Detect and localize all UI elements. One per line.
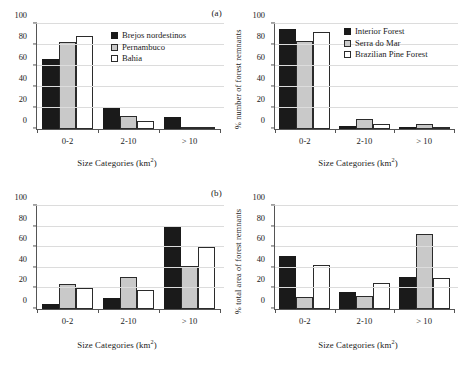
y-tick-mark xyxy=(33,43,37,44)
y-tick-mark xyxy=(271,204,275,205)
y-tick-label: 80 xyxy=(257,32,270,41)
x-tick-label: 0-2 xyxy=(299,136,310,146)
black-square-swatch xyxy=(344,28,351,35)
x-tick-mark xyxy=(335,309,336,313)
bar xyxy=(164,117,181,129)
bar-group xyxy=(98,206,159,309)
bar-group xyxy=(275,206,335,309)
legend-item-label: Serra do Mar xyxy=(355,38,400,50)
y-tick-label: 20 xyxy=(257,275,270,284)
y-tick-label: 40 xyxy=(257,74,270,83)
panel-label-b: (b) xyxy=(211,188,222,198)
legend-item: Brazilian Pine Forest xyxy=(344,49,428,61)
x-tick-mark xyxy=(454,309,455,313)
gridline xyxy=(37,65,224,66)
plot-wrapper: (a) 0204060801000-22-10> 10 Brejos norde… xyxy=(6,6,228,182)
bar xyxy=(416,124,433,129)
gridline xyxy=(275,86,458,87)
x-tick-label: 2-10 xyxy=(357,316,373,326)
y-tick-label: 40 xyxy=(257,254,270,263)
legend-item-label: Bahia xyxy=(122,53,142,65)
x-tick-label: 2-10 xyxy=(121,316,137,326)
bar xyxy=(198,247,215,309)
y-tick-label: 80 xyxy=(19,213,32,222)
gridline xyxy=(37,246,224,247)
x-tick-mark xyxy=(454,129,455,133)
x-tick-mark xyxy=(335,129,336,133)
legend-item: Bahia xyxy=(111,53,186,65)
y-tick-mark xyxy=(271,85,275,86)
y-tick-mark xyxy=(33,287,37,288)
y-tick-mark xyxy=(271,287,275,288)
black-square-swatch xyxy=(111,32,118,39)
legend-item-label: Interior Forest xyxy=(355,26,404,38)
y-tick-label: 0 xyxy=(261,296,270,305)
x-tick-label: > 10 xyxy=(416,136,432,146)
bar xyxy=(416,234,433,309)
bar-group xyxy=(275,24,335,129)
x-axis-title: Size Categories (km2) xyxy=(6,156,228,168)
bar xyxy=(399,127,416,129)
bar-group xyxy=(37,206,98,309)
legend-item: Interior Forest xyxy=(344,26,428,38)
y-tick-label: 40 xyxy=(19,254,32,263)
gridline xyxy=(37,23,224,24)
bar-group xyxy=(394,206,454,309)
y-tick-label: 0 xyxy=(261,116,270,125)
y-axis-title: % number of forest remnants xyxy=(234,20,243,138)
y-tick-mark xyxy=(271,22,275,23)
x-tick-mark xyxy=(98,309,99,313)
chart-panel-a-right: % number of forest remnants 020406080100… xyxy=(232,6,462,182)
y-tick-label: 80 xyxy=(257,213,270,222)
panel-label-a: (a) xyxy=(211,8,222,18)
y-tick-label: 100 xyxy=(252,193,270,202)
y-tick-mark xyxy=(33,225,37,226)
legend-item-label: Brazilian Pine Forest xyxy=(355,49,428,61)
x-tick-label: > 10 xyxy=(416,316,432,326)
y-tick-mark xyxy=(271,64,275,65)
y-tick-mark xyxy=(33,64,37,65)
y-tick-mark xyxy=(271,266,275,267)
gridline xyxy=(37,226,224,227)
gridline xyxy=(37,107,224,108)
bar xyxy=(76,36,93,129)
bar xyxy=(103,108,120,129)
gridline xyxy=(275,107,458,108)
plot-area: 0204060801000-22-10> 10 xyxy=(36,206,220,310)
gridline xyxy=(37,86,224,87)
gridline xyxy=(275,23,458,24)
bar xyxy=(76,288,93,309)
x-tick-mark xyxy=(159,309,160,313)
x-axis-title: Size Categories (km2) xyxy=(260,338,456,350)
x-axis-title: Size Categories (km2) xyxy=(6,338,228,350)
x-tick-mark xyxy=(220,129,221,133)
bar xyxy=(399,277,416,309)
y-tick-label: 60 xyxy=(257,234,270,243)
x-tick-mark xyxy=(159,129,160,133)
gridline xyxy=(275,205,458,206)
x-tick-mark xyxy=(275,129,276,133)
y-tick-label: 20 xyxy=(19,95,32,104)
chart-panel-b-right: % total area of forest remnants 02040608… xyxy=(232,186,462,366)
bar xyxy=(339,292,356,310)
bar xyxy=(103,298,120,309)
x-axis-title: Size Categories (km2) xyxy=(260,156,456,168)
bar xyxy=(42,304,59,309)
plot-wrapper: (b) 0204060801000-22-10> 10 Size Categor… xyxy=(6,186,228,366)
bar xyxy=(181,127,198,129)
y-tick-label: 0 xyxy=(23,116,32,125)
x-tick-mark xyxy=(220,309,221,313)
chart-panel-a-left: (a) 0204060801000-22-10> 10 Brejos norde… xyxy=(6,6,228,182)
y-tick-label: 0 xyxy=(23,296,32,305)
x-tick-label: > 10 xyxy=(182,136,198,146)
y-tick-mark xyxy=(33,85,37,86)
bar xyxy=(433,127,450,129)
bar xyxy=(433,278,450,309)
plot-area: 0204060801000-22-10> 10 xyxy=(274,206,454,310)
legend-item: Serra do Mar xyxy=(344,38,428,50)
bar xyxy=(198,127,215,129)
y-tick-label: 20 xyxy=(19,275,32,284)
gray-square-swatch xyxy=(111,44,118,51)
plot-wrapper: % total area of forest remnants 02040608… xyxy=(232,186,462,366)
x-tick-mark xyxy=(98,129,99,133)
